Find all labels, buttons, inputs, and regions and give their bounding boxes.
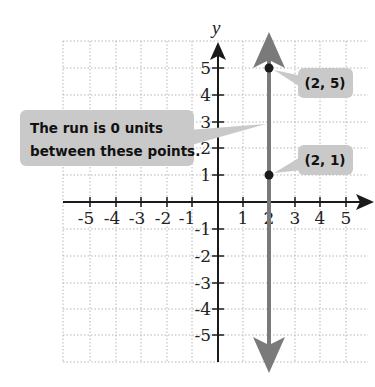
svg-text:-2: -2 <box>155 208 172 228</box>
svg-text:-3: -3 <box>194 273 211 293</box>
y-axis-title: y <box>210 17 221 38</box>
point-label-2-5: (2, 5) <box>274 68 353 98</box>
svg-text:-2: -2 <box>194 246 211 266</box>
point-2-1 <box>265 171 274 180</box>
svg-text:4: 4 <box>200 85 211 105</box>
svg-text:1: 1 <box>200 165 211 185</box>
svg-text:-3: -3 <box>129 208 146 228</box>
run-callout: The run is 0 units between these points. <box>20 110 266 166</box>
point-label-2-1: (2, 1) <box>274 145 353 175</box>
svg-text:5: 5 <box>341 208 352 228</box>
svg-text:3: 3 <box>290 208 301 228</box>
svg-text:(2, 5): (2, 5) <box>305 75 346 91</box>
svg-text:(2, 1): (2, 1) <box>305 152 346 168</box>
x-tick-labels: -5 -4 -3 -2 -1 1 2 3 4 5 <box>78 208 352 228</box>
svg-text:-1: -1 <box>179 208 196 228</box>
svg-text:The run is 0 units: The run is 0 units <box>30 120 163 136</box>
point-2-5 <box>265 64 274 73</box>
svg-text:-1: -1 <box>194 219 211 239</box>
svg-text:4: 4 <box>315 208 326 228</box>
svg-text:between these points.: between these points. <box>30 143 200 159</box>
svg-text:-4: -4 <box>194 299 211 319</box>
svg-text:-4: -4 <box>104 208 121 228</box>
svg-text:-5: -5 <box>194 325 211 345</box>
svg-text:5: 5 <box>200 58 211 78</box>
svg-text:1: 1 <box>238 208 249 228</box>
coordinate-plane: -5 -4 -3 -2 -1 1 2 3 4 5 5 4 3 2 1 -1 -2… <box>0 0 375 387</box>
svg-text:-5: -5 <box>78 208 95 228</box>
